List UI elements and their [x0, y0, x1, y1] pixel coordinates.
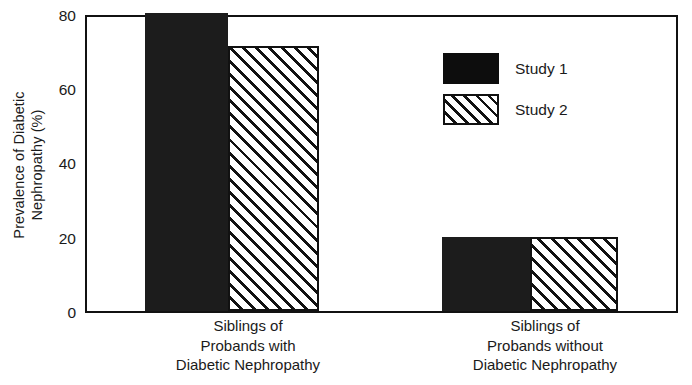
x-category-label-0: Siblings of Probands with Diabetic Nephr…	[108, 316, 388, 375]
y-tick-label-60: 60	[30, 82, 76, 98]
y-tick-label-20: 20	[30, 231, 76, 247]
x-category-label-1-line-3: Diabetic Nephropathy	[400, 355, 690, 375]
x-category-label-1-line-1: Siblings of	[400, 316, 690, 336]
y-tick-label-40: 40	[30, 156, 76, 172]
legend-item-study-2[interactable]: Study 2	[443, 94, 603, 125]
legend-swatch-hatch-icon	[443, 94, 499, 125]
x-category-label-0-line-1: Siblings of	[108, 316, 388, 336]
x-category-label-1: Siblings of Probands without Diabetic Ne…	[400, 316, 690, 375]
y-axis-title-line-1: Prevalence of Diabetic	[10, 91, 28, 238]
legend-item-study-1[interactable]: Study 1	[443, 53, 603, 84]
x-category-label-0-line-2: Probands with	[108, 336, 388, 356]
bar-chart-figure: Prevalence of Diabetic Nephropathy (%) 8…	[0, 0, 692, 385]
y-tick-label-80: 80	[30, 8, 76, 24]
legend-label-study-1: Study 1	[515, 61, 568, 77]
legend: Study 1 Study 2	[443, 53, 603, 135]
legend-label-study-2: Study 2	[515, 102, 568, 118]
bar-group-0-series-study-2[interactable]	[228, 46, 319, 311]
bar-group-0-series-study-1[interactable]	[145, 13, 228, 311]
bar-group-1-series-study-1[interactable]	[442, 237, 530, 311]
y-tick-label-0: 0	[30, 305, 76, 321]
x-category-label-0-line-3: Diabetic Nephropathy	[108, 355, 388, 375]
bar-group-1-series-study-2[interactable]	[530, 237, 618, 311]
legend-swatch-solid-icon	[443, 53, 499, 84]
x-category-label-1-line-2: Probands without	[400, 336, 690, 356]
